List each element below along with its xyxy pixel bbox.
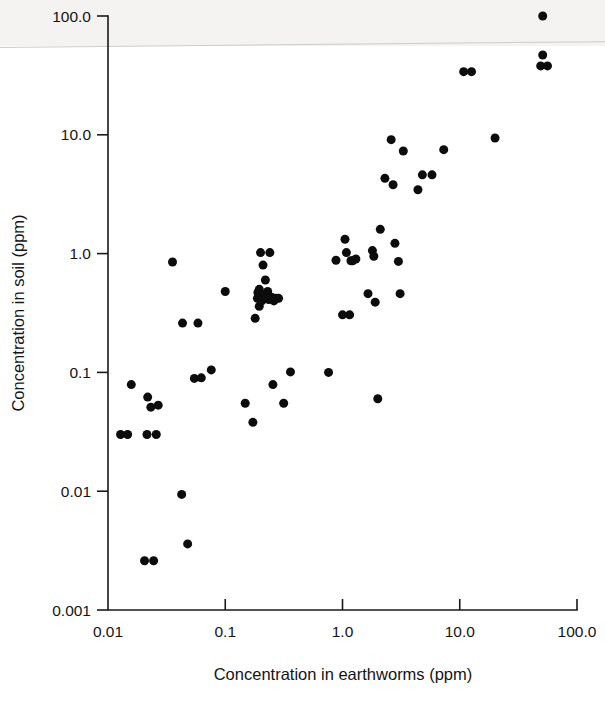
y-tick-label: 1.0 — [69, 245, 91, 262]
data-point — [178, 319, 187, 328]
data-point — [140, 556, 149, 565]
scatter-plot-figure: 0.0010.010.11.010.0100.0 0.010.11.010.01… — [0, 0, 605, 708]
data-point — [251, 314, 260, 323]
data-point — [538, 50, 547, 59]
data-point — [143, 393, 152, 402]
plot-canvas: 0.0010.010.11.010.0100.0 0.010.11.010.01… — [0, 0, 605, 708]
data-point — [331, 256, 340, 265]
data-point — [439, 145, 448, 154]
data-point — [279, 399, 288, 408]
data-point — [351, 255, 360, 264]
data-point — [459, 67, 468, 76]
data-point — [154, 401, 163, 410]
data-point — [127, 380, 136, 389]
data-point — [265, 248, 274, 257]
data-point — [142, 430, 151, 439]
data-point — [257, 296, 266, 305]
data-point — [413, 185, 422, 194]
data-point — [256, 248, 265, 257]
data-point — [364, 289, 373, 298]
data-point — [389, 180, 398, 189]
data-point — [538, 12, 547, 21]
x-axis-title: Concentration in earthworms (ppm) — [214, 665, 473, 683]
data-point — [380, 174, 389, 183]
data-point — [491, 133, 500, 142]
data-point — [149, 556, 158, 565]
x-tick-label: 10.0 — [445, 623, 476, 640]
data-point — [241, 399, 250, 408]
data-point — [345, 310, 354, 319]
data-point — [183, 539, 192, 548]
data-point — [342, 248, 351, 257]
data-point — [268, 380, 277, 389]
data-point — [543, 61, 552, 70]
y-axis-title: Concentration in soil (ppm) — [9, 214, 27, 411]
data-point — [390, 239, 399, 248]
data-point — [193, 319, 202, 328]
y-axis-tick-labels: 0.0010.010.11.010.0100.0 — [52, 8, 91, 619]
data-point — [373, 394, 382, 403]
data-point — [376, 225, 385, 234]
data-point — [286, 367, 295, 376]
x-tick-label: 100.0 — [558, 623, 597, 640]
data-point — [152, 430, 161, 439]
data-point — [255, 285, 264, 294]
data-point — [123, 430, 132, 439]
data-point — [396, 289, 405, 298]
data-point — [324, 368, 333, 377]
data-point — [428, 170, 437, 179]
data-point — [399, 147, 408, 156]
y-axis-ticks — [97, 16, 108, 610]
y-tick-label: 0.001 — [52, 602, 91, 619]
x-axis-ticks — [225, 599, 577, 610]
data-point — [221, 287, 230, 296]
data-point — [394, 257, 403, 266]
data-point — [168, 257, 177, 266]
data-point — [207, 365, 216, 374]
data-point — [269, 296, 278, 305]
data-point — [197, 373, 206, 382]
x-axis-tick-labels: 0.010.11.010.0100.0 — [93, 623, 597, 640]
y-tick-label: 0.01 — [61, 483, 91, 500]
data-point — [177, 490, 186, 499]
data-point — [387, 135, 396, 144]
data-point — [261, 275, 270, 284]
data-point — [467, 67, 476, 76]
data-points-group — [116, 12, 552, 566]
x-tick-label: 0.1 — [214, 623, 236, 640]
data-point — [259, 261, 268, 270]
data-point — [371, 298, 380, 307]
data-point — [248, 418, 257, 427]
y-tick-label: 10.0 — [61, 126, 92, 143]
x-tick-label: 1.0 — [332, 623, 354, 640]
data-point — [340, 235, 349, 244]
data-point — [369, 252, 378, 261]
y-tick-label: 100.0 — [52, 8, 91, 25]
data-point — [418, 170, 427, 179]
y-tick-label: 0.1 — [69, 364, 91, 381]
x-tick-label: 0.01 — [93, 623, 123, 640]
